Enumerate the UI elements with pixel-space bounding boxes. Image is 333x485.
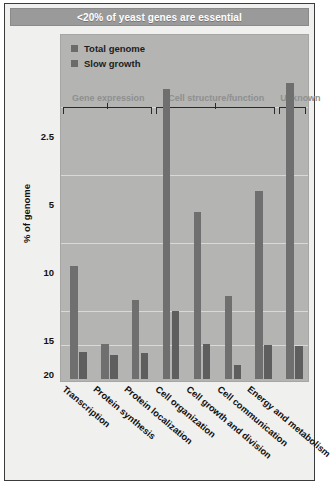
- y-tick-label: 15: [43, 335, 54, 346]
- y-tick-label: 2.5: [41, 131, 54, 142]
- bar-total-genome: [194, 212, 202, 379]
- bar-slow-growth: [172, 311, 180, 379]
- page-title: <20% of yeast genes are essential: [77, 12, 242, 23]
- y-axis: % of genome 20151052.5: [5, 34, 60, 382]
- bar-slow-growth: [79, 352, 87, 379]
- bar-total-genome: [225, 296, 233, 379]
- plot-area: Total genome Slow growth Gene expression…: [60, 34, 309, 382]
- bar-slow-growth: [295, 346, 303, 379]
- bar-total-genome: [255, 191, 263, 379]
- y-tick-label: 20: [43, 369, 54, 380]
- figure-card: <20% of yeast genes are essential % of g…: [4, 3, 315, 481]
- bar-slow-growth: [203, 344, 211, 379]
- bar-slow-growth: [110, 355, 118, 379]
- y-tick-label: 5: [49, 199, 54, 210]
- bar-slow-growth: [234, 365, 242, 379]
- bar-total-genome: [132, 300, 140, 379]
- bar-total-genome: [70, 266, 78, 379]
- bar-total-genome: [286, 83, 294, 379]
- figure-title-bar: <20% of yeast genes are essential: [10, 8, 309, 26]
- bar-total-genome: [101, 344, 109, 379]
- bar-slow-growth: [264, 345, 272, 379]
- y-tick-label: 10: [43, 267, 54, 278]
- bar-slow-growth: [141, 353, 149, 379]
- x-tick-labels: TranscriptionProtein synthesisProtein lo…: [60, 384, 320, 484]
- y-axis-title: % of genome: [21, 169, 32, 259]
- bar-series-container: [61, 35, 308, 381]
- bar-total-genome: [163, 89, 171, 379]
